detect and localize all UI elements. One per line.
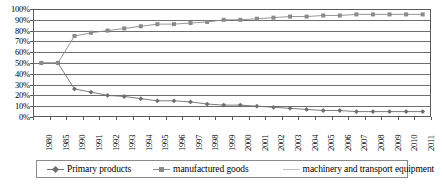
y-axis-tick-label: 90%: [15, 16, 30, 25]
series-layer: [33, 9, 431, 117]
series-line: [41, 63, 422, 112]
series-marker-square: [139, 24, 143, 28]
series-marker-square: [172, 22, 176, 26]
legend-entry[interactable]: manufactured goods: [153, 164, 249, 174]
y-axis: 100%90%80%70%60%50%40%30%20%10%0%: [0, 0, 33, 126]
series-marker-diamond: [337, 108, 342, 113]
series-marker-square: [271, 16, 275, 20]
x-axis-tick-mark: [398, 117, 399, 120]
series-marker-square: [189, 21, 193, 25]
x-axis-tick-label: 2005: [327, 135, 336, 151]
legend-label: manufactured goods: [173, 164, 249, 174]
y-axis-tick-label: 20%: [15, 91, 30, 100]
y-axis-tick-label: 70%: [15, 37, 30, 46]
x-axis-tick-mark: [365, 117, 366, 120]
series-marker-square: [56, 61, 60, 65]
series-marker-diamond: [138, 96, 143, 101]
x-axis-tick-label: 2000: [244, 135, 253, 151]
x-axis-tick-mark: [232, 117, 233, 120]
legend-line: [283, 169, 300, 170]
series-marker-square: [155, 22, 159, 26]
x-axis-tick-mark: [282, 117, 283, 120]
x-axis-tick-label: 1991: [95, 135, 104, 151]
series-marker-diamond: [288, 106, 293, 111]
legend-marker-icon: [153, 165, 170, 174]
y-axis-tick-label: 100%: [11, 5, 30, 14]
series-marker-diamond: [387, 109, 392, 114]
series-marker-diamond: [271, 105, 276, 110]
series-marker-square: [305, 15, 309, 19]
series-marker-square: [39, 61, 43, 65]
x-axis-tick-label: 2009: [394, 135, 403, 151]
x-axis-tick-label: 1985: [62, 135, 71, 151]
x-axis-tick-label: 1994: [145, 135, 154, 151]
x-axis-tick-mark: [298, 117, 299, 120]
x-axis-tick-mark: [66, 117, 67, 120]
x-axis-tick-mark: [133, 117, 134, 120]
x-axis-tick-label: 1997: [195, 135, 204, 151]
x-axis-tick-mark: [265, 117, 266, 120]
series-marker-diamond: [321, 108, 326, 113]
x-axis-tick-label: 1980: [45, 135, 54, 151]
series-marker-diamond: [172, 98, 177, 103]
y-axis-tick-label: 60%: [15, 48, 30, 57]
x-axis-tick-label: 2001: [261, 135, 270, 151]
series-marker-square: [321, 13, 325, 17]
series-marker-square: [255, 17, 259, 21]
x-axis-tick-mark: [315, 117, 316, 120]
series-marker-square: [222, 18, 226, 22]
x-axis-tick-mark: [182, 117, 183, 120]
legend-entry[interactable]: Primary products: [47, 164, 131, 174]
series-marker-diamond: [354, 109, 359, 114]
x-axis-tick-mark: [33, 117, 34, 120]
legend-marker-icon: [47, 165, 64, 174]
series-marker-diamond: [188, 99, 193, 104]
series-marker-diamond: [122, 94, 127, 99]
series-marker-square: [89, 31, 93, 35]
series-marker-square: [404, 12, 408, 16]
series-marker-square: [338, 13, 342, 17]
series-paths: [33, 9, 431, 117]
series-line: [41, 14, 422, 63]
x-axis-tick-mark: [199, 117, 200, 120]
x-axis-tick-mark: [332, 117, 333, 120]
x-axis-tick-mark: [215, 117, 216, 120]
x-axis-tick-label: 2002: [277, 135, 286, 151]
y-axis-tick-label: 50%: [15, 59, 30, 68]
x-axis-tick-label: 2011: [427, 135, 436, 151]
series-marker-square: [72, 34, 76, 38]
x-axis-tick-label: 2010: [410, 135, 419, 151]
x-axis-tick-label: 1993: [128, 135, 137, 151]
series-marker-diamond: [105, 93, 110, 98]
legend-label: Primary products: [67, 164, 131, 174]
legend-marker-square: [159, 167, 164, 172]
series-marker-diamond: [72, 87, 77, 92]
x-axis-tick-mark: [381, 117, 382, 120]
x-axis-tick-mark: [414, 117, 415, 120]
x-axis-tick-label: 1996: [178, 135, 187, 151]
legend-entry[interactable]: machinery and transport equipment: [283, 164, 435, 174]
series-marker-square: [371, 12, 375, 16]
x-axis-tick-mark: [116, 117, 117, 120]
series-marker-diamond: [238, 103, 243, 108]
series-marker-square: [288, 15, 292, 19]
series-marker-diamond: [254, 104, 259, 109]
x-axis-tick-mark: [249, 117, 250, 120]
x-axis: 1980198519901991199219931994199519961997…: [33, 117, 431, 157]
x-axis-tick-label: 2008: [377, 135, 386, 151]
chart-legend: Primary productsmanufactured goodsmachin…: [36, 160, 408, 178]
series-marker-square: [388, 12, 392, 16]
x-axis-tick-label: 1999: [228, 135, 237, 151]
legend-marker-diamond: [52, 165, 59, 172]
series-marker-diamond: [221, 103, 226, 108]
x-axis-tick-label: 2007: [360, 135, 369, 151]
y-axis-tick-label: 40%: [15, 70, 30, 79]
y-axis-tick-label: 0%: [19, 113, 30, 122]
series-marker-diamond: [371, 109, 376, 114]
series-marker-square: [354, 12, 358, 16]
y-axis-tick-label: 10%: [15, 102, 30, 111]
series-marker-diamond: [155, 98, 160, 103]
series-marker-square: [238, 18, 242, 22]
series-marker-diamond: [404, 109, 409, 114]
series-marker-diamond: [89, 90, 94, 95]
